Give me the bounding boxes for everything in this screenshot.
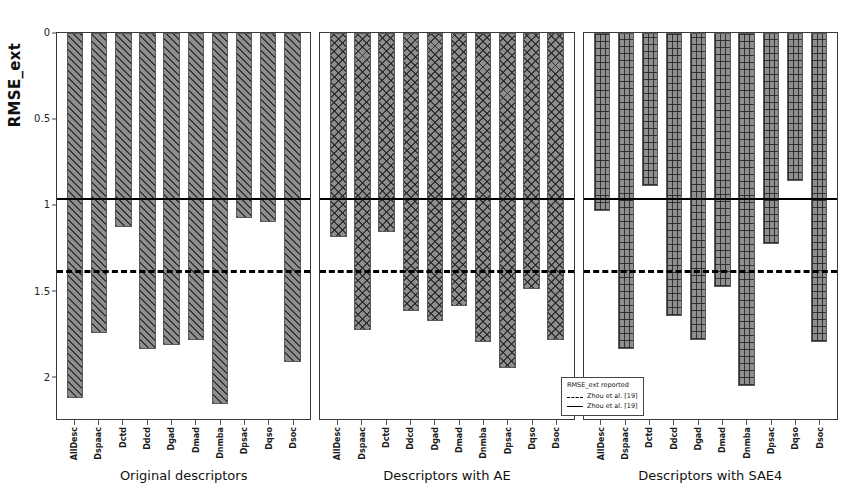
x-label-slot: Dctd	[374, 427, 398, 471]
x-tick-mark	[698, 420, 699, 425]
bar-dspaac[interactable]	[354, 33, 370, 330]
bar-dpsac[interactable]	[236, 33, 252, 218]
x-label-group-2: AllDescDspaacDctdDdcdDgadDmadDnmbaDpsacD…	[583, 427, 838, 471]
x-tick-mark	[361, 420, 362, 425]
x-label-dspaac: Dspaac	[621, 427, 630, 460]
y-tick-label: 1	[44, 199, 50, 210]
bar-slot	[280, 33, 304, 419]
panel-sae4	[583, 32, 838, 420]
x-label-dmad: Dmad	[191, 427, 200, 453]
bar-dqso[interactable]	[787, 33, 803, 181]
x-tick-mark	[244, 420, 245, 425]
x-tick-mark	[122, 420, 123, 425]
x-label-dnmba: Dnmba	[216, 427, 225, 459]
x-label-slot: Dsoc	[808, 427, 832, 471]
bar-ddcd[interactable]	[139, 33, 155, 349]
x-tick-mark	[98, 420, 99, 425]
bar-dsoc[interactable]	[811, 33, 827, 342]
x-label-dgad: Dgad	[694, 427, 703, 451]
bar-slot	[232, 33, 256, 419]
x-label-slot: Ddcd	[135, 427, 159, 471]
panel-captions: Original descriptorsDescriptors with AED…	[56, 468, 838, 494]
bar-dgad[interactable]	[427, 33, 443, 321]
y-tick-4: 2	[44, 371, 56, 382]
bar-dqso[interactable]	[523, 33, 539, 289]
bar-slot	[326, 33, 350, 419]
legend-entry-solid-label: Zhou et al. [19]	[587, 402, 638, 411]
bar-alldesc[interactable]	[330, 33, 346, 237]
bar-dctd[interactable]	[642, 33, 658, 186]
bar-dpsac[interactable]	[763, 33, 779, 244]
x-tick-mark	[556, 420, 557, 425]
y-tick-label: 2	[44, 371, 50, 382]
x-label-slot: Dspaac	[350, 427, 374, 471]
bar-dctd[interactable]	[115, 33, 131, 227]
y-tick-0: 0	[44, 27, 56, 38]
x-label-dqso: Dqso	[264, 427, 273, 450]
y-tick-2: 1	[44, 199, 56, 210]
x-label-dctd: Dctd	[645, 427, 654, 448]
x-label-dgad: Dgad	[167, 427, 176, 451]
bar-dmad[interactable]	[188, 33, 204, 340]
bar-slot	[471, 33, 495, 419]
bar-group	[57, 33, 310, 419]
bar-slot	[184, 33, 208, 419]
bar-slot	[350, 33, 374, 419]
bar-slot	[710, 33, 734, 419]
bar-slot	[807, 33, 831, 419]
legend-entry-dashed-label: Zhou et al. [19]	[587, 392, 638, 401]
bar-slot	[735, 33, 759, 419]
x-label-dspaac: Dspaac	[357, 427, 366, 460]
bar-dqso[interactable]	[260, 33, 276, 222]
y-tick-label: 0	[44, 27, 50, 38]
bar-dnmba[interactable]	[738, 33, 754, 386]
bar-dpsac[interactable]	[499, 33, 515, 368]
x-label-dsoc: Dsoc	[815, 427, 824, 449]
bar-group	[584, 33, 837, 419]
panel-original	[56, 32, 311, 420]
x-label-slot: AllDesc	[589, 427, 613, 471]
x-label-slot: Dmad	[710, 427, 734, 471]
bar-dctd[interactable]	[378, 33, 394, 232]
bar-dnmba[interactable]	[212, 33, 228, 404]
x-label-dqso: Dqso	[791, 427, 800, 450]
bar-dmad[interactable]	[451, 33, 467, 306]
x-tick-mark	[507, 420, 508, 425]
x-tick-mark	[795, 420, 796, 425]
x-tick-mark	[625, 420, 626, 425]
x-tick-mark	[459, 420, 460, 425]
legend-entry-solid: Zhou et al. [19]	[567, 402, 638, 411]
bar-alldesc[interactable]	[67, 33, 83, 398]
bar-dsoc[interactable]	[284, 33, 300, 362]
x-label-ddcd: Ddcd	[143, 427, 152, 450]
x-tick-mark	[434, 420, 435, 425]
bar-ddcd[interactable]	[666, 33, 682, 316]
x-tick-mark	[410, 420, 411, 425]
x-label-dpsac: Dpsac	[503, 427, 512, 454]
x-tick-mark	[600, 420, 601, 425]
bar-slot	[208, 33, 232, 419]
legend: RMSE_ext reported Zhou et al. [19] Zhou …	[561, 377, 644, 416]
x-label-slot: Dpsac	[496, 427, 520, 471]
x-label-dmad: Dmad	[718, 427, 727, 453]
bar-ddcd[interactable]	[403, 33, 419, 311]
bar-dspaac[interactable]	[91, 33, 107, 333]
bar-dsoc[interactable]	[547, 33, 563, 340]
bar-slot	[256, 33, 280, 419]
x-axis-labels: AllDescDspaacDctdDdcdDgadDmadDnmbaDpsacD…	[56, 427, 838, 471]
panels-container	[56, 32, 838, 420]
bar-slot	[63, 33, 87, 419]
x-label-slot: Ddcd	[398, 427, 422, 471]
bar-dgad[interactable]	[690, 33, 706, 340]
panel-ae	[319, 32, 574, 420]
x-label-alldesc: AllDesc	[596, 427, 605, 460]
bar-dnmba[interactable]	[475, 33, 491, 342]
x-label-slot: Dsoc	[281, 427, 305, 471]
bar-alldesc[interactable]	[594, 33, 610, 211]
x-label-dnmba: Dnmba	[742, 427, 751, 459]
x-tick-mark	[337, 420, 338, 425]
bar-dspaac[interactable]	[618, 33, 634, 349]
y-tick-label: 1.5	[34, 285, 50, 296]
bar-dmad[interactable]	[714, 33, 730, 287]
bar-dgad[interactable]	[163, 33, 179, 345]
